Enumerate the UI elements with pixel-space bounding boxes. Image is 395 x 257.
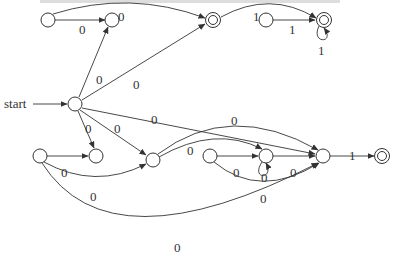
label-s-k: 0 xyxy=(151,112,158,127)
state-a xyxy=(41,13,55,27)
state-l-accepting xyxy=(375,149,390,164)
label-d-e: 1 xyxy=(289,22,296,37)
label-i-k: 0 xyxy=(260,191,267,206)
label-j-loop: 0 xyxy=(261,170,268,185)
edge-e-loop xyxy=(317,26,327,40)
label-e-loop: 1 xyxy=(318,43,325,58)
edge-g-h xyxy=(44,162,146,177)
start-label: start xyxy=(4,96,27,111)
state-i xyxy=(203,149,217,163)
label-s-b: 0 xyxy=(96,72,103,87)
label-s-h: 0 xyxy=(114,121,121,136)
label-j-k: 0 xyxy=(290,165,297,180)
label-g-f: 0 xyxy=(61,165,68,180)
edge-a-c xyxy=(53,3,205,18)
state-c-accepting xyxy=(206,13,221,28)
state-e-accepting xyxy=(317,13,332,28)
label-h-k: 0 xyxy=(231,113,238,128)
edge-g-k xyxy=(42,163,318,217)
label-g-k: 0 xyxy=(174,240,181,255)
automaton-diagram: start 0 0 1 1 1 0 0 0 0 0 0 0 0 0 0 0 0 … xyxy=(0,0,395,257)
label-a-b: 0 xyxy=(79,22,86,37)
state-start xyxy=(68,97,82,111)
state-h xyxy=(146,153,160,167)
state-f xyxy=(89,149,103,163)
edge-s-c xyxy=(82,24,205,100)
state-d xyxy=(259,13,273,27)
label-i-j: 0 xyxy=(233,165,240,180)
label-s-f: 0 xyxy=(85,121,92,136)
label-h-j: 0 xyxy=(187,143,194,158)
label-a-c: 0 xyxy=(118,9,125,24)
state-b xyxy=(105,13,119,27)
label-s-c: 0 xyxy=(133,77,140,92)
label-g-h: 0 xyxy=(90,189,97,204)
state-k xyxy=(316,149,330,163)
state-g xyxy=(33,149,47,163)
state-j xyxy=(259,149,273,163)
label-c-e: 1 xyxy=(253,9,260,24)
cut-off-text xyxy=(40,0,340,3)
label-k-l: 1 xyxy=(349,148,356,163)
